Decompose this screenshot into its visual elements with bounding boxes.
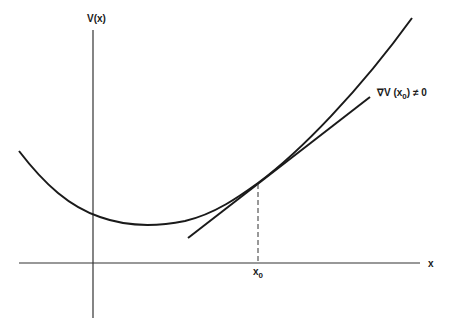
gradient-label: ∇V (x0) ≠ 0	[377, 88, 427, 101]
x0-label: x0	[253, 267, 263, 280]
x-axis-label: x	[428, 259, 434, 269]
gradient-label-prefix: ∇V (x	[377, 87, 402, 98]
x0-label-sub: 0	[259, 271, 263, 280]
y-axis-label: V(x)	[87, 14, 106, 24]
potential-diagram	[0, 0, 451, 334]
tangent-line	[188, 97, 370, 238]
gradient-label-suffix: ) ≠ 0	[407, 87, 427, 98]
potential-curve	[19, 18, 412, 225]
